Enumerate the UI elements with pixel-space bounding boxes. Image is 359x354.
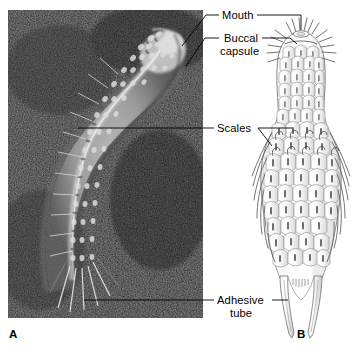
callout-label-mouth: Mouth	[222, 9, 254, 21]
panel-a-label: A	[9, 328, 17, 340]
panel-a-photomicrograph: A	[0, 5, 210, 340]
callout-label-buccal-line1: Buccal	[224, 32, 258, 44]
figure-canvas: A	[0, 0, 359, 354]
panel-b-label: B	[297, 328, 305, 340]
callout-label-adhesive-line2: tube	[230, 307, 252, 319]
callout-label-scales: Scales	[217, 122, 251, 134]
callout-label-adhesive-line1: Adhesive	[217, 294, 264, 306]
figure-panel-container: A	[0, 0, 359, 354]
callout-label-buccal-line2: capsule	[220, 45, 259, 57]
